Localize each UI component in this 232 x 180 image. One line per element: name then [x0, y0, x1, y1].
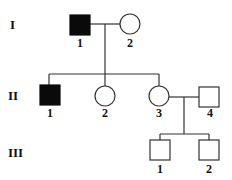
individual-II-2-female — [95, 86, 115, 106]
individual-label-III-2: 2 — [206, 162, 212, 176]
generation-label-2: II — [8, 88, 18, 103]
individual-II-1-affected-male — [40, 85, 60, 105]
individual-I-2-female — [120, 14, 140, 34]
individual-label-I-1: 1 — [77, 36, 83, 50]
individual-label-I-2: 2 — [127, 36, 133, 50]
individual-III-1-male — [150, 140, 170, 160]
individual-II-3-female — [149, 86, 169, 106]
generation-label-1: I — [10, 17, 15, 32]
individual-label-II-3: 3 — [156, 106, 162, 120]
generation-label-3: III — [8, 145, 23, 160]
individual-label-II-2: 2 — [102, 106, 108, 120]
individual-label-III-1: 1 — [157, 162, 163, 176]
pedigree-diagram: I II III 1 2 1 2 3 4 1 2 — [0, 0, 232, 180]
individual-label-II-4: 4 — [207, 106, 213, 120]
individual-label-II-1: 1 — [47, 106, 53, 120]
individual-I-1-affected-male — [70, 15, 90, 35]
individual-III-2-male — [199, 140, 219, 160]
individual-II-4-male — [199, 87, 219, 107]
